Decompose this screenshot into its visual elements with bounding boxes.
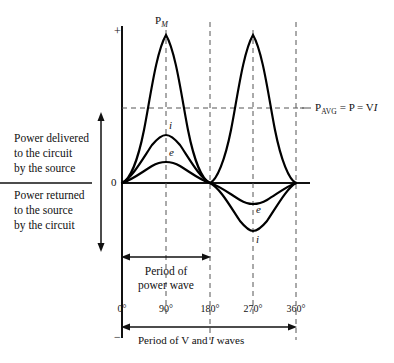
average-power-subscript: AVG [321, 107, 337, 116]
axis-minus-sign: − [114, 330, 121, 345]
voltage-label-positive: e [169, 146, 174, 159]
current-label-negative: i [256, 233, 259, 246]
x-tick-label-360: 360° [276, 303, 316, 314]
current-label-positive: i [169, 119, 172, 132]
power-peak-label: PM [155, 14, 168, 31]
power-direction-arrow [98, 112, 105, 252]
x-tick-label-180: 180° [190, 303, 230, 314]
power-wave-curve [122, 35, 296, 183]
axis-zero-label: 0 [111, 176, 117, 189]
voltage-label-negative: e [256, 203, 261, 216]
power-delivered-line-3: by the source [14, 161, 89, 176]
power-returned-line-3: by the circuit [14, 218, 85, 233]
average-power-equals: = P = V [337, 101, 374, 113]
power-returned-label: Power returned to the source by the circ… [14, 188, 85, 233]
average-power-label: PAVG = P = VI [315, 101, 378, 118]
power-wave-span-label: Period of power wave [106, 264, 226, 292]
power-wave-span-arrow [121, 250, 211, 264]
power-returned-line-2: to the source [14, 203, 85, 218]
vi-wave-span-text-post: waves [214, 334, 244, 346]
vi-wave-span-arrow [121, 320, 297, 334]
x-tick-label-270: 270° [233, 303, 273, 314]
average-power-current-symbol: I [374, 101, 378, 113]
power-returned-line-1: Power returned [14, 188, 85, 203]
power-delivered-line-2: to the circuit [14, 146, 89, 161]
x-tick-label-90: 90° [146, 303, 186, 314]
vi-wave-span-text-pre: Period of V and [138, 334, 210, 346]
x-tick-label-0: 0° [102, 303, 142, 314]
power-peak-subscript: M [161, 20, 168, 29]
axis-plus-sign: + [114, 24, 121, 39]
power-delivered-label: Power delivered to the circuit by the so… [14, 131, 89, 176]
power-wave-span-line-1: Period of [106, 264, 226, 278]
power-delivered-line-1: Power delivered [14, 131, 89, 146]
vi-wave-span-label: Period of V and I waves [138, 334, 244, 347]
power-wave-span-line-2: power wave [106, 278, 226, 292]
power-waveform-figure: + − 0 PM i e e i PAVG = P = VI Power del… [0, 0, 394, 363]
